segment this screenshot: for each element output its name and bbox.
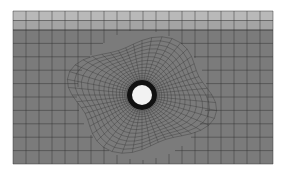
circular-hole — [132, 85, 152, 105]
fem-mesh-figure — [0, 0, 281, 173]
